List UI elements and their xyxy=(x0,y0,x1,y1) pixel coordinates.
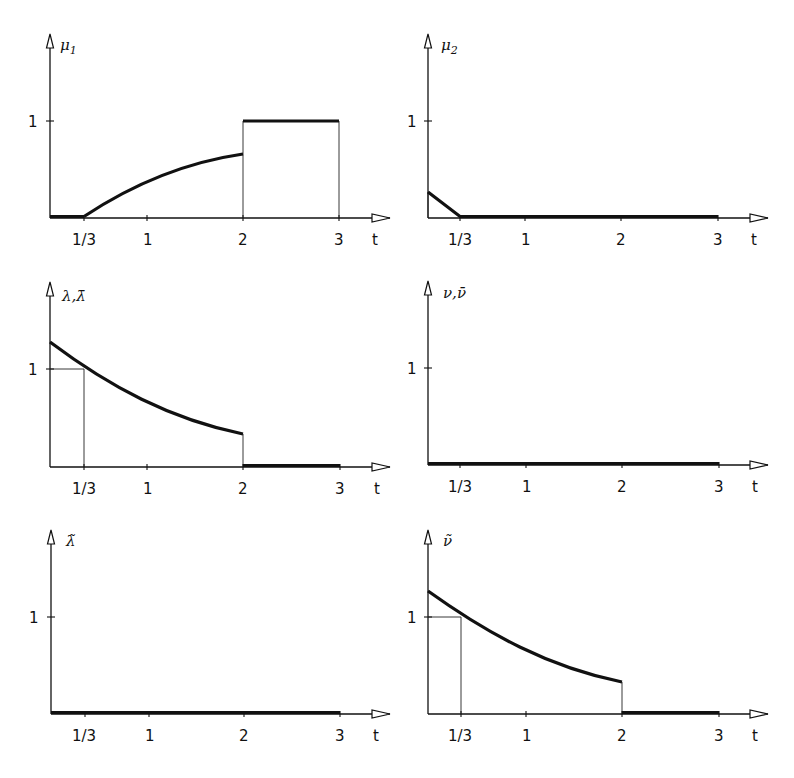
x-tick-2: 2 xyxy=(616,231,626,249)
x-axis-label: t xyxy=(751,231,757,249)
x-axis-label: t xyxy=(752,727,758,745)
figure-canvas: μ1 1 1/3 1 2 3 t μ2 1 1/3 1 2 3 t xyxy=(0,0,794,778)
x-tick-3: 3 xyxy=(335,480,345,498)
panel-lambda: λ,λ̄ 1 1/3 1 2 3 t xyxy=(28,282,390,498)
y-axis-label: ν,ν̄ xyxy=(443,284,466,302)
y-axis-label: λ̃ xyxy=(65,532,76,550)
x-tick-2: 2 xyxy=(239,727,249,745)
y-axis-arrow-icon xyxy=(48,530,55,544)
x-tick-1: 1 xyxy=(522,478,532,496)
x-tick-1: 1 xyxy=(145,727,155,745)
x-tick-2: 2 xyxy=(238,231,248,249)
y-axis-label: μ2 xyxy=(441,36,458,57)
lambda-curve-decay xyxy=(50,342,243,434)
panel-nu-tilde: ν̃ 1 1/3 1 2 3 t xyxy=(407,530,768,745)
mu2-curve xyxy=(428,192,718,217)
x-tick-2: 2 xyxy=(617,727,627,745)
y-axis-arrow-icon xyxy=(425,281,432,295)
y-tick-1: 1 xyxy=(407,609,417,627)
y-axis-arrow-icon xyxy=(425,34,432,48)
y-axis-arrow-icon xyxy=(47,282,54,296)
x-tick-third: 1/3 xyxy=(72,231,96,249)
x-tick-3: 3 xyxy=(714,478,724,496)
panel-mu2: μ2 1 1/3 1 2 3 t xyxy=(407,34,768,249)
x-axis-label: t xyxy=(374,480,380,498)
x-axis-arrow-icon xyxy=(750,214,768,222)
x-tick-1: 1 xyxy=(522,727,532,745)
x-tick-1: 1 xyxy=(143,231,153,249)
x-axis-arrow-icon xyxy=(750,461,768,469)
x-axis-arrow-icon xyxy=(372,214,390,222)
panel-lambda-tilde: λ̃ 1 1/3 1 2 3 t xyxy=(29,530,390,745)
x-tick-third: 1/3 xyxy=(72,727,96,745)
panel-mu1: μ1 1 1/3 1 2 3 t xyxy=(28,34,390,249)
x-axis-arrow-icon xyxy=(372,710,390,718)
x-tick-3: 3 xyxy=(335,727,345,745)
y-tick-1: 1 xyxy=(407,113,417,131)
x-tick-1: 1 xyxy=(143,480,153,498)
x-tick-3: 3 xyxy=(334,231,344,249)
x-tick-2: 2 xyxy=(238,480,248,498)
x-tick-third: 1/3 xyxy=(448,231,472,249)
x-tick-2: 2 xyxy=(617,478,627,496)
x-tick-1: 1 xyxy=(521,231,531,249)
x-tick-3: 3 xyxy=(713,231,723,249)
x-axis-arrow-icon xyxy=(750,710,768,718)
y-axis-arrow-icon xyxy=(47,34,54,48)
y-axis-label: λ,λ̄ xyxy=(61,287,86,305)
x-tick-3: 3 xyxy=(714,727,724,745)
mu1-curve-rise xyxy=(84,154,243,217)
y-tick-1: 1 xyxy=(407,360,417,378)
x-tick-third: 1/3 xyxy=(448,727,472,745)
x-axis-label: t xyxy=(372,231,378,249)
y-axis-label: ν̃ xyxy=(443,532,452,550)
nu-tilde-curve-decay xyxy=(428,591,622,682)
y-tick-1: 1 xyxy=(28,361,38,379)
x-axis-label: t xyxy=(752,478,758,496)
y-tick-1: 1 xyxy=(29,609,39,627)
y-axis-label: μ1 xyxy=(60,36,77,57)
x-tick-third: 1/3 xyxy=(72,480,96,498)
panel-nu: ν,ν̄ 1 1/3 1 2 3 t xyxy=(407,281,768,496)
y-tick-1: 1 xyxy=(28,113,38,131)
x-tick-third: 1/3 xyxy=(448,478,472,496)
y-axis-arrow-icon xyxy=(425,530,432,544)
x-axis-label: t xyxy=(373,727,379,745)
x-axis-arrow-icon xyxy=(372,463,390,471)
